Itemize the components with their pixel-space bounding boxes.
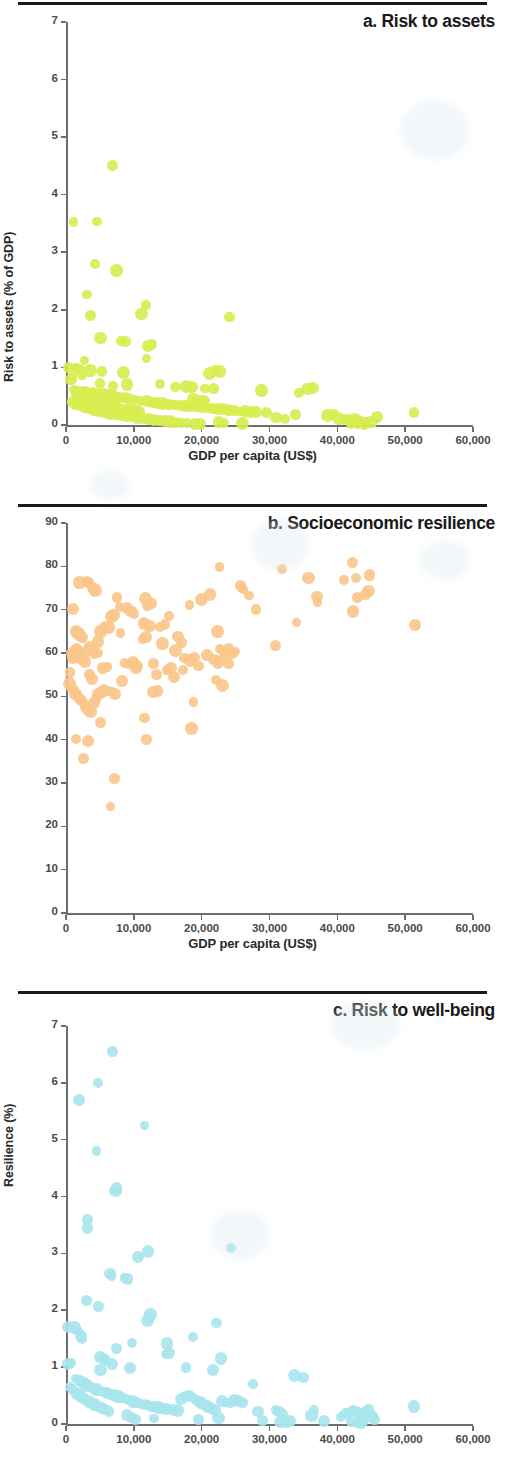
scatter-point (168, 1404, 180, 1416)
scatter-point (93, 1301, 104, 1312)
scatter-point (151, 397, 164, 410)
scatter-point (236, 417, 249, 430)
scatter-point (107, 390, 120, 403)
scatter-point (211, 675, 221, 685)
scatter-point (113, 392, 124, 403)
scatter-point (164, 611, 174, 621)
scatter-point (290, 409, 301, 420)
scatter-point (70, 625, 82, 637)
scatter-point (351, 1406, 362, 1417)
scatter-point (339, 575, 348, 584)
paper-smudge (90, 470, 130, 500)
scatter-point (349, 413, 361, 425)
panel-a-x-axis-label: GDP per capita (US$) (0, 448, 505, 463)
scatter-point (70, 399, 82, 411)
scatter-point (211, 625, 224, 638)
scatter-point (90, 259, 100, 269)
scatter-point (97, 366, 108, 377)
scatter-point (161, 1350, 170, 1359)
y-tick-label: 0 (18, 1416, 58, 1428)
scatter-point (408, 1400, 421, 1413)
scatter-point (156, 637, 169, 650)
scatter-point (89, 584, 102, 597)
scatter-point (239, 585, 248, 594)
x-tick-label: 10,000 (104, 922, 164, 934)
scatter-point (106, 1358, 118, 1370)
x-tick-mark (269, 915, 271, 920)
scatter-point (354, 1410, 365, 1421)
scatter-point (74, 693, 85, 704)
scatter-point (228, 405, 240, 417)
scatter-point (124, 1395, 134, 1405)
scatter-point (144, 1308, 157, 1321)
x-tick-mark (472, 1426, 474, 1431)
scatter-point (67, 652, 79, 664)
scatter-point (81, 1379, 94, 1392)
y-tick-label: 20 (18, 818, 58, 830)
scatter-point (65, 374, 77, 386)
scatter-point (77, 1377, 89, 1389)
scatter-point (74, 364, 85, 375)
scatter-point (93, 405, 105, 417)
scatter-point (83, 577, 94, 588)
scatter-point (185, 381, 197, 393)
scatter-point (127, 606, 137, 616)
scatter-point (88, 1383, 99, 1394)
scatter-point (351, 573, 361, 583)
scatter-point (123, 393, 136, 406)
scatter-point (232, 1395, 244, 1407)
scatter-point (107, 609, 119, 621)
scatter-point (84, 1381, 95, 1392)
y-tick-label: 5 (18, 1132, 58, 1144)
scatter-point (111, 1182, 122, 1193)
scatter-point (328, 409, 339, 420)
x-tick-label: 30,000 (240, 1433, 300, 1445)
scatter-point (359, 418, 370, 429)
scatter-point (115, 602, 124, 611)
scatter-point (214, 365, 226, 377)
scatter-point (352, 418, 363, 429)
scatter-point (119, 336, 131, 348)
scatter-point (175, 1393, 187, 1405)
scatter-point (142, 600, 153, 611)
scatter-point (66, 648, 76, 658)
scatter-point (69, 385, 79, 395)
panel-a-plot-area: 01234567010,00020,00030,00040,00050,0006… (66, 22, 473, 425)
scatter-point (121, 1409, 133, 1421)
scatter-point (142, 354, 151, 363)
scatter-point (237, 1397, 248, 1408)
scatter-point (193, 1414, 204, 1425)
scatter-point (270, 412, 282, 424)
scatter-point (175, 400, 185, 410)
scatter-point (191, 402, 200, 411)
scatter-point (76, 695, 87, 706)
scatter-point (67, 650, 78, 661)
scatter-point (79, 402, 90, 413)
scatter-point (109, 1389, 122, 1402)
scatter-point (102, 1357, 112, 1367)
scatter-point (261, 407, 272, 418)
x-tick-mark (269, 1426, 271, 1431)
scatter-point (189, 697, 199, 707)
scatter-point (73, 576, 86, 589)
scatter-point (77, 371, 87, 381)
scatter-point (107, 1046, 118, 1057)
scatter-point (348, 1405, 358, 1415)
scatter-point (87, 644, 99, 656)
panel-c-top-rule (18, 991, 487, 994)
scatter-point (176, 637, 187, 648)
scatter-point (138, 634, 148, 644)
scatter-point (94, 332, 107, 345)
scatter-point (200, 384, 209, 393)
scatter-point (193, 661, 204, 672)
scatter-point (216, 1395, 228, 1407)
scatter-point (138, 1399, 149, 1410)
panel-b-plot-area: 0102030405060708090010,00020,00030,00040… (66, 523, 473, 913)
scatter-point (237, 583, 247, 593)
scatter-point (359, 1407, 371, 1419)
scatter-point (332, 412, 345, 425)
scatter-point (130, 1414, 141, 1425)
scatter-point (244, 591, 254, 601)
scatter-point (108, 381, 118, 391)
x-tick-mark (404, 427, 406, 432)
